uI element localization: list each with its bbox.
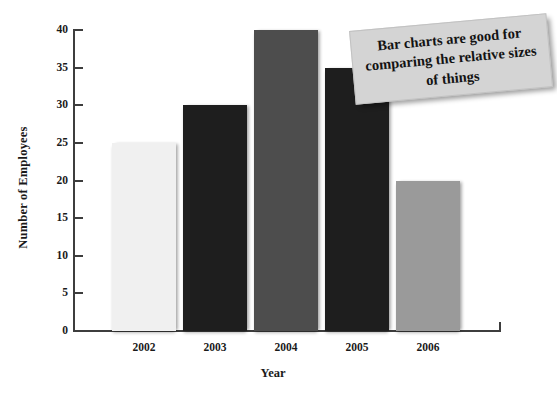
- y-axis-tick-label: 35: [34, 62, 68, 73]
- x-axis-title: Year: [73, 366, 473, 381]
- y-axis-tick-label: 30: [34, 99, 68, 110]
- y-axis-tick-labels: 0510152025303540: [28, 0, 68, 396]
- bar-2004: [254, 30, 318, 331]
- bar-2002: [112, 143, 176, 331]
- y-axis-tick: [73, 255, 83, 257]
- y-axis-tick: [73, 217, 83, 219]
- y-axis-tick: [73, 104, 83, 106]
- x-axis-label-2005: 2005: [321, 341, 393, 353]
- y-axis-tick-label: 20: [34, 175, 68, 186]
- y-axis-tick: [73, 292, 83, 294]
- x-axis-label-2004: 2004: [250, 341, 322, 353]
- y-axis-title: Number of Employees: [16, 108, 31, 268]
- bar-chart-figure: Number of Employees at Zigzar Motors 200…: [0, 0, 557, 396]
- y-axis-tick-label: 0: [34, 325, 68, 336]
- x-axis-label-2003: 2003: [179, 341, 251, 353]
- y-axis-tick-label: 25: [34, 137, 68, 148]
- y-axis-tick: [73, 330, 83, 332]
- bar-2003: [183, 105, 247, 331]
- x-axis-label-2002: 2002: [108, 341, 180, 353]
- bar-2005: [325, 68, 389, 331]
- y-axis-tick-label: 5: [34, 287, 68, 298]
- y-axis-tick: [73, 67, 83, 69]
- y-axis-tick-label: 15: [34, 212, 68, 223]
- y-axis-tick-label: 10: [34, 250, 68, 261]
- callout-note: Bar charts are good for comparing the re…: [349, 13, 553, 105]
- x-axis-label-2006: 2006: [392, 341, 464, 353]
- y-axis-tick: [73, 142, 83, 144]
- y-axis-tick: [73, 180, 83, 182]
- callout-note-text: Bar charts are good for comparing the re…: [351, 22, 551, 97]
- bar-2006: [396, 181, 460, 332]
- y-axis-tick-label: 40: [34, 24, 68, 35]
